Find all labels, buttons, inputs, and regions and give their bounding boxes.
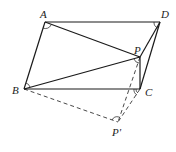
label-A: A: [39, 8, 47, 20]
segment-BP-prime: [24, 89, 118, 122]
segment-AP: [45, 22, 140, 57]
label-D: D: [160, 8, 169, 20]
diagram-canvas: A D B C P P': [0, 0, 176, 152]
label-P-prime: P': [111, 126, 122, 138]
angle-mark-P-prime: [112, 117, 119, 120]
label-B: B: [12, 84, 19, 96]
segment-CP-prime: [118, 89, 140, 122]
segment-AB: [24, 22, 45, 89]
label-P: P: [133, 44, 141, 56]
angle-mark-P: [134, 59, 139, 63]
geometry-diagram: A D B C P P': [0, 0, 176, 152]
angle-mark-B: [26, 83, 30, 87]
segment-CD: [140, 22, 160, 89]
label-C: C: [145, 86, 153, 98]
segment-BP: [24, 57, 140, 89]
angle-mark-C: [134, 89, 138, 95]
